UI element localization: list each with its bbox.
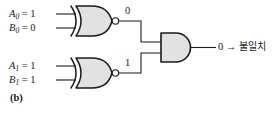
output-korean-text: 불일치	[239, 41, 266, 52]
logic-diagram-figure: A0 = 1 B0 = 0 A1 = 1 B1 = 1 0 1 0 → 불일치 …	[0, 0, 274, 115]
input-label-b0-value: = 0	[22, 22, 36, 33]
input-label-a1-subscript: 1	[15, 64, 19, 73]
and-gate-body	[161, 33, 191, 62]
xnor-gate-top-arc	[71, 6, 76, 36]
input-label-b0-subscript: 0	[15, 26, 19, 35]
input-label-b1-value: = 1	[22, 74, 36, 85]
output-value-text: 0 →	[218, 41, 239, 52]
input-label-a0: A0 = 1	[9, 9, 36, 20]
input-label-b0: B0 = 0	[9, 23, 36, 34]
input-label-a0-value: = 1	[22, 8, 36, 19]
input-label-b1-subscript: 1	[15, 78, 19, 87]
panel-label: (b)	[10, 93, 23, 104]
wire-value-label-bottom: 1	[125, 58, 130, 69]
xnor-gate-top-body	[76, 6, 112, 36]
wire-top-to-and	[119, 21, 161, 42]
circuit-schematic	[0, 0, 274, 115]
input-label-a0-subscript: 0	[15, 12, 19, 21]
xnor-gate-top-bubble-icon	[112, 18, 118, 24]
xnor-gate-bottom-arc	[71, 58, 76, 88]
xnor-gate-bottom-body	[76, 58, 112, 88]
xnor-gate-bottom-bubble-icon	[112, 70, 118, 76]
wire-value-label-top: 0	[125, 6, 130, 17]
output-annotation: 0 → 불일치	[218, 42, 266, 53]
input-label-a1: A1 = 1	[9, 61, 36, 72]
input-label-a1-value: = 1	[22, 60, 36, 71]
input-label-b1: B1 = 1	[9, 75, 36, 86]
